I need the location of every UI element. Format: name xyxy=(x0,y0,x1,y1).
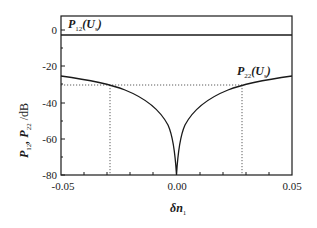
y-tick-minus20: -20 xyxy=(42,60,57,72)
x-tick-minus005: -0.05 xyxy=(52,180,75,192)
x-tick-000: 0.00 xyxy=(167,180,187,192)
x-axis-label: δn1 xyxy=(170,201,187,217)
plot-frame xyxy=(61,16,292,175)
chart: 0 -20 -40 -60 -80 -0.05 0.00 0.05 P12(Us… xyxy=(0,0,317,228)
y-tick-minus40: -40 xyxy=(42,97,57,109)
y-tick-minus60: -60 xyxy=(42,133,57,145)
x-tick-labels: -0.05 0.00 0.05 xyxy=(52,180,303,192)
annotation-p12: P12(Us) xyxy=(68,17,102,33)
series-p22 xyxy=(61,76,292,175)
y-tick-0: 0 xyxy=(52,24,58,36)
y-axis-label: P12, P22 /dB xyxy=(17,103,33,158)
reference-lines xyxy=(61,85,242,175)
annotation-p22: P22(Us) xyxy=(237,64,271,80)
y-tick-labels: 0 -20 -40 -60 -80 xyxy=(42,24,57,181)
x-tick-005: 0.05 xyxy=(282,180,302,192)
